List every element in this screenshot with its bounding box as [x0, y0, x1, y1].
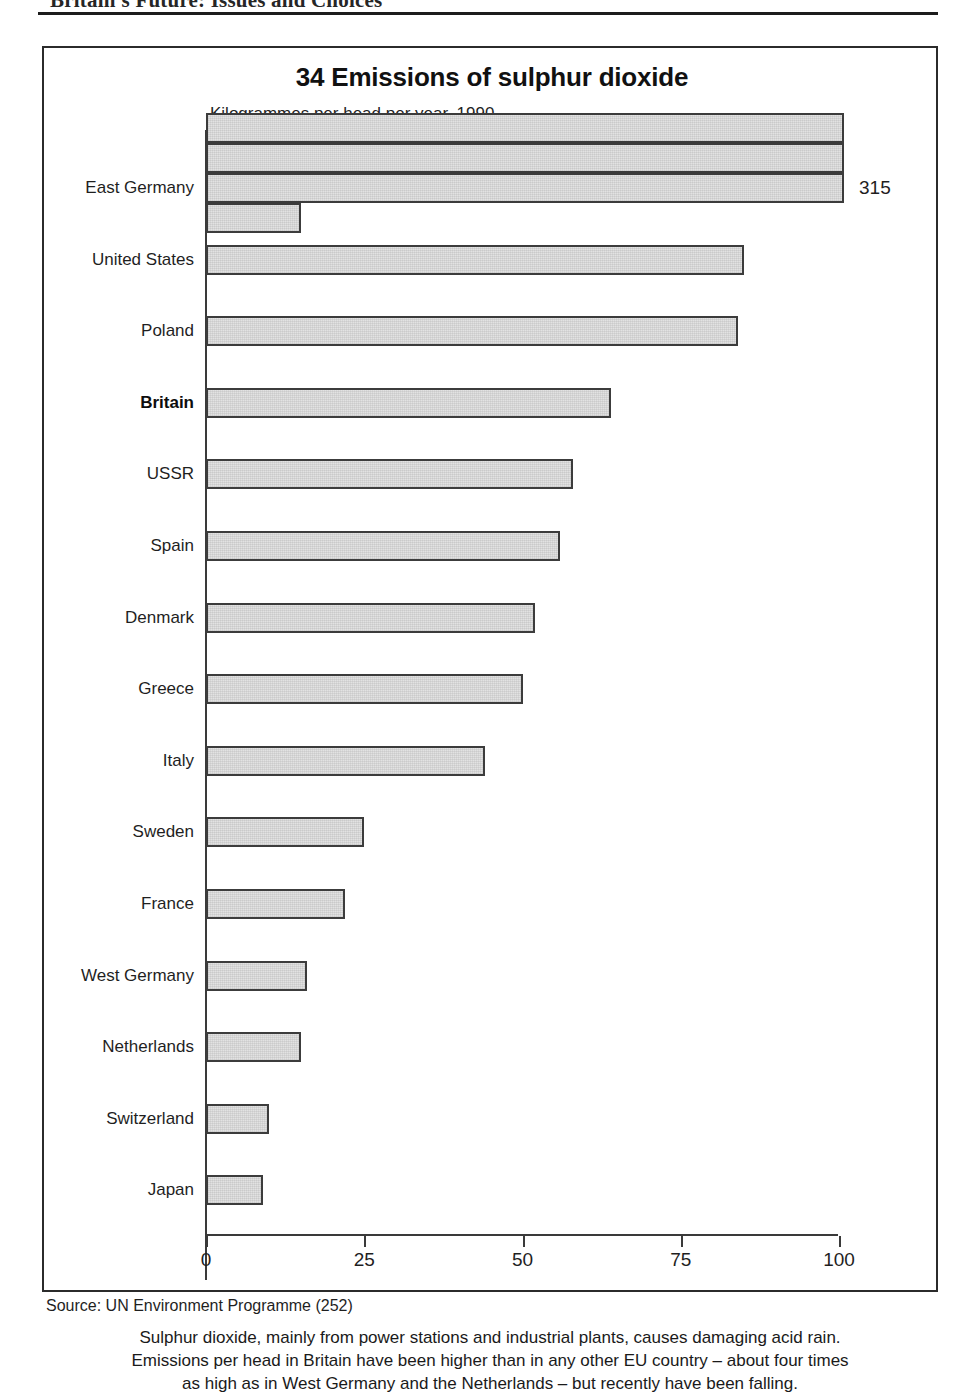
caption-line-3: as high as in West Germany and the Nethe…: [42, 1372, 938, 1395]
bar-east-germany-segment-3: [206, 173, 844, 203]
x-axis-tick-50: [523, 1236, 525, 1247]
x-axis-tick-0: [206, 1236, 208, 1247]
bar-ussr: [206, 459, 573, 489]
category-label-italy: Italy: [44, 751, 202, 771]
category-label-netherlands: Netherlands: [44, 1037, 202, 1057]
category-label-east-germany: East Germany: [44, 178, 202, 198]
x-axis-line: [205, 1234, 838, 1236]
category-label-greece: Greece: [44, 679, 202, 699]
bar-sweden: [206, 817, 364, 847]
source-note: Source: UN Environment Programme (252): [46, 1297, 353, 1315]
category-label-denmark: Denmark: [44, 608, 202, 628]
bar-poland: [206, 316, 738, 346]
x-axis-tick-label-25: 25: [354, 1249, 375, 1271]
category-label-poland: Poland: [44, 321, 202, 341]
bar-spain: [206, 531, 560, 561]
plot-area: 0255075100East Germany315United StatesPo…: [44, 48, 940, 1294]
caption-line-1: Sulphur dioxide, mainly from power stati…: [42, 1326, 938, 1349]
category-label-britain: Britain: [44, 393, 202, 413]
page-running-header: Britain's Future: Issues and Choices: [0, 0, 979, 30]
header-rule: [38, 12, 938, 15]
category-label-switzerland: Switzerland: [44, 1109, 202, 1129]
x-axis-tick-100: [839, 1236, 841, 1247]
x-axis-tick-label-100: 100: [823, 1249, 855, 1271]
category-label-united-states: United States: [44, 250, 202, 270]
category-label-west-germany: West Germany: [44, 966, 202, 986]
bar-france: [206, 889, 345, 919]
category-label-ussr: USSR: [44, 464, 202, 484]
category-label-japan: Japan: [44, 1180, 202, 1200]
bar-italy: [206, 746, 485, 776]
bar-denmark: [206, 603, 535, 633]
x-axis-tick-75: [681, 1236, 683, 1247]
x-axis-tick-label-50: 50: [512, 1249, 533, 1271]
figure-frame: 34 Emissions of sulphur dioxide Kilogram…: [42, 46, 938, 1292]
bar-greece: [206, 674, 523, 704]
data-label-east-germany: 315: [859, 177, 891, 199]
x-axis-tick-25: [364, 1236, 366, 1247]
bar-east-germany-segment-2: [206, 143, 844, 173]
bar-switzerland: [206, 1104, 269, 1134]
bar-east-germany-remainder: [206, 203, 301, 233]
bar-britain: [206, 388, 611, 418]
bar-east-germany-segment-1: [206, 113, 844, 143]
bar-united-states: [206, 245, 744, 275]
bar-west-germany: [206, 961, 307, 991]
x-axis-tick-label-0: 0: [201, 1249, 212, 1271]
figure-caption: Sulphur dioxide, mainly from power stati…: [42, 1326, 938, 1395]
bar-netherlands: [206, 1032, 301, 1062]
caption-line-2: Emissions per head in Britain have been …: [42, 1349, 938, 1372]
category-label-sweden: Sweden: [44, 822, 202, 842]
category-label-spain: Spain: [44, 536, 202, 556]
category-label-france: France: [44, 894, 202, 914]
x-axis-tick-label-75: 75: [670, 1249, 691, 1271]
bar-japan: [206, 1175, 263, 1205]
